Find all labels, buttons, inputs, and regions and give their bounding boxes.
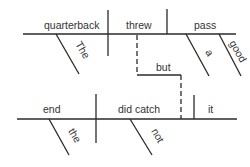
modifier-good: good — [227, 38, 249, 64]
modifier-line-the — [56, 34, 79, 74]
clause2-object: it — [208, 103, 213, 115]
modifier-line-not — [130, 119, 152, 155]
modifier-the-upper: The — [73, 39, 93, 61]
sentence-diagram: quarterback threw pass The a good but en… — [0, 0, 250, 167]
clause1-verb: threw — [126, 19, 152, 31]
modifier-the-lower: the — [66, 126, 84, 145]
modifier-line-the-lower — [49, 119, 69, 155]
clause1-subject: quarterback — [44, 19, 100, 31]
conjunction-word: but — [156, 61, 171, 73]
clause1-object: pass — [194, 19, 216, 31]
modifier-not: not — [149, 126, 167, 145]
clause2-verb: did catch — [118, 103, 160, 115]
clause2-subject: end — [43, 103, 61, 115]
modifier-a: a — [203, 47, 216, 58]
